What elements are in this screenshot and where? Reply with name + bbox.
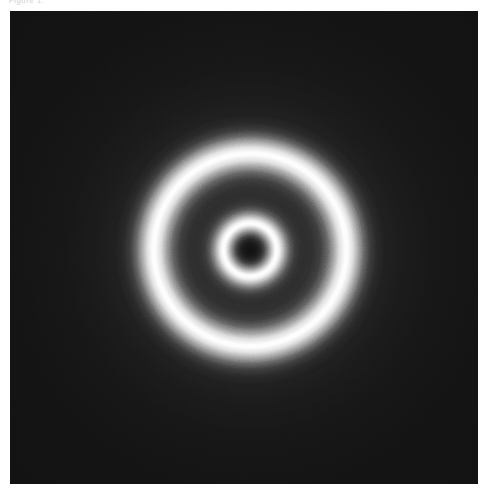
noise-svg: [10, 11, 478, 484]
figure-caption-text: Figure 1.: [9, 0, 44, 5]
figure-caption-strip: Figure 1.: [0, 0, 489, 11]
figure-root: Figure 1.: [0, 0, 489, 496]
sensor-noise-layer: [10, 11, 478, 484]
intensity-image-canvas: [10, 11, 478, 484]
